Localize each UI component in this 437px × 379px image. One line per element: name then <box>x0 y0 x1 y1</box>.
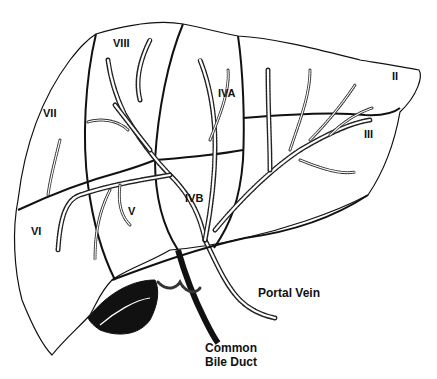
common-bile-duct-label-line1: Common <box>205 341 257 355</box>
segment-label-iii: III <box>364 128 373 140</box>
portal-vein-label: Portal Vein <box>258 286 320 300</box>
liver-outline <box>15 22 421 355</box>
segment-label-iva: IVA <box>218 87 236 99</box>
segment-label-vi: VI <box>31 225 41 237</box>
segment-label-ivb: IVB <box>185 192 203 204</box>
structure-labels: Portal Vein Common Bile Duct <box>205 286 320 369</box>
segment-label-ii: II <box>392 70 398 82</box>
cystic-duct <box>158 282 200 292</box>
segment-label-v: V <box>128 205 136 217</box>
liver-diagram: II III IVA IVB V VI VII VIII Portal Vein… <box>0 0 437 379</box>
common-bile-duct <box>178 250 218 343</box>
common-bile-duct-label-line2: Bile Duct <box>205 355 257 369</box>
portal-vein-trunk <box>205 240 275 318</box>
segment-label-vii: VII <box>43 107 56 119</box>
segment-label-viii: VIII <box>113 37 130 49</box>
